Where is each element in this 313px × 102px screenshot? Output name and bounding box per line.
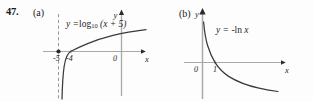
- tick-label-minus5-a: -5: [53, 54, 60, 63]
- x-axis-label-b: x: [285, 65, 289, 75]
- figure-root: 47. (a) y =log10 (x + 5) -5: [0, 0, 313, 102]
- tick-label-zero-a: 0: [113, 54, 117, 63]
- equation-arg-b: x: [244, 25, 248, 35]
- tick-label-zero-b: 0: [194, 65, 198, 74]
- tick-label-minus4-a: -4: [66, 54, 73, 63]
- panel-a: 47. (a) y =log10 (x + 5) -5: [0, 0, 160, 102]
- equation-fn-b: -ln: [231, 25, 242, 35]
- equation-lhs-a: y =: [66, 19, 79, 29]
- equation-label-b: y = -ln x: [216, 25, 249, 35]
- x-axis-label-a: x: [145, 54, 149, 64]
- tick-label-one-b: 1: [213, 65, 217, 74]
- curve-log-a: [62, 30, 146, 99]
- equation-arg-a: (x + 5): [100, 19, 126, 29]
- plot-a: [0, 0, 160, 102]
- y-axis-label-b: y: [195, 9, 199, 19]
- panel-b: (b) y = -ln x 0 1 y x: [160, 0, 313, 102]
- marked-point-a: [56, 49, 60, 53]
- plot-b: [160, 0, 313, 102]
- equation-lhs-b: y =: [216, 25, 229, 35]
- equation-label-a: y =log10 (x + 5): [66, 19, 127, 29]
- equation-fn-a: log: [79, 19, 91, 29]
- y-axis-label-a: y: [114, 10, 118, 20]
- equation-base-a: 10: [91, 22, 98, 29]
